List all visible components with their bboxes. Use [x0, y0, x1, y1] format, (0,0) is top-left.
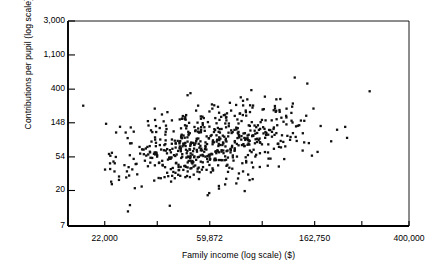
x-axis-tick-label: 22,000 — [92, 234, 118, 243]
data-point — [259, 121, 261, 123]
data-point — [284, 145, 286, 147]
data-point — [232, 154, 234, 156]
data-point — [237, 144, 239, 146]
data-point — [210, 171, 212, 173]
data-point — [171, 138, 173, 140]
data-point — [294, 76, 296, 78]
data-point — [200, 147, 202, 149]
data-point — [246, 137, 248, 139]
y-axis-tick-label: 20 — [55, 185, 65, 194]
y-axis-tick-label: 148 — [51, 118, 65, 127]
data-point — [278, 146, 280, 148]
data-point — [190, 143, 192, 145]
data-point — [249, 104, 251, 106]
data-point — [155, 131, 157, 133]
data-point — [213, 131, 215, 133]
data-point — [207, 121, 209, 123]
data-point — [172, 130, 174, 132]
scatter-plot-figure: 3,0001,10040014854207 Contributions per … — [0, 0, 441, 278]
data-point — [128, 174, 130, 176]
data-point — [196, 121, 198, 123]
data-point — [238, 134, 240, 136]
data-point — [165, 124, 167, 126]
data-point — [159, 138, 161, 140]
data-point — [256, 141, 258, 143]
data-point — [254, 142, 256, 144]
data-point — [215, 134, 217, 136]
data-point — [261, 143, 263, 145]
data-point — [177, 166, 179, 168]
data-point — [189, 149, 191, 151]
data-point — [189, 145, 191, 147]
data-point — [217, 164, 219, 166]
data-point — [208, 192, 210, 194]
data-point — [125, 131, 127, 133]
data-point — [115, 156, 117, 158]
data-point — [240, 138, 242, 140]
data-point — [251, 106, 253, 108]
data-point — [113, 170, 115, 172]
data-point — [241, 162, 243, 164]
data-point — [165, 131, 167, 133]
data-point — [135, 163, 137, 165]
data-point — [225, 138, 227, 140]
data-point — [160, 177, 162, 179]
data-point — [118, 179, 120, 181]
data-point — [149, 161, 151, 163]
data-point — [154, 153, 156, 155]
data-point — [263, 108, 265, 110]
data-point — [312, 107, 314, 109]
data-point — [243, 137, 245, 139]
data-point — [184, 145, 186, 147]
data-point — [221, 159, 223, 161]
data-point — [269, 157, 271, 159]
data-point — [141, 185, 143, 187]
data-point — [320, 125, 322, 127]
data-point — [196, 138, 198, 140]
data-point — [188, 122, 190, 124]
data-point — [206, 135, 208, 137]
data-point — [282, 141, 284, 143]
data-point — [211, 107, 213, 109]
data-point — [198, 178, 200, 180]
data-point — [336, 129, 338, 131]
data-point — [222, 134, 224, 136]
data-point — [197, 127, 199, 129]
data-point — [133, 158, 135, 160]
data-point — [224, 145, 226, 147]
data-point — [237, 122, 239, 124]
data-point — [187, 161, 189, 163]
data-point — [134, 187, 136, 189]
data-point — [215, 122, 217, 124]
data-point — [344, 126, 346, 128]
data-point — [109, 162, 111, 164]
data-point — [205, 169, 207, 171]
data-point — [166, 111, 168, 113]
data-point — [289, 136, 291, 138]
data-point — [210, 153, 212, 155]
data-point — [225, 178, 227, 180]
data-point — [279, 98, 281, 100]
data-point — [305, 115, 307, 117]
data-point — [212, 141, 214, 143]
data-point — [239, 112, 241, 114]
data-point — [224, 155, 226, 157]
data-point — [215, 159, 217, 161]
data-point — [273, 148, 275, 150]
data-point — [201, 116, 203, 118]
data-point — [164, 143, 166, 145]
data-point — [235, 182, 237, 184]
data-point — [130, 126, 132, 128]
data-point — [160, 148, 162, 150]
data-point — [112, 160, 114, 162]
data-point — [180, 166, 182, 168]
data-point — [264, 96, 266, 98]
data-point — [189, 160, 191, 162]
data-point — [250, 89, 252, 91]
data-point — [302, 149, 304, 151]
data-point — [154, 136, 156, 138]
data-point — [197, 168, 199, 170]
data-point — [224, 183, 226, 185]
data-point — [144, 160, 146, 162]
data-point — [268, 129, 270, 131]
